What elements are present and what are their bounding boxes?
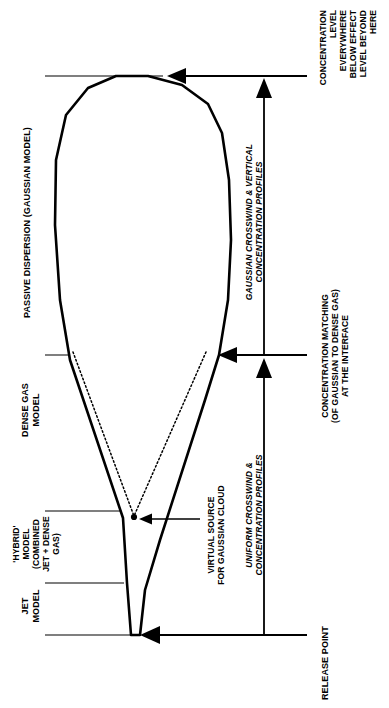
effect-level-boundary-arrow [167,68,307,84]
zone-label-dense-gas-model: DENSE GAS MODEL [20,355,41,465]
zone-label-hybrid-model: 'HYBRID' MODEL (COMBINED JET + DENSE GAS… [11,508,61,580]
release-point-arrow [140,626,307,644]
annotation-virtual-source: VIRTUAL SOURCE FOR GAUSSIAN CLOUD [206,455,226,615]
annotation-concentration-level: CONCENTRATION LEVEL EVERYWHERE BELOW EFF… [318,10,378,178]
annotation-release-point: RELEASE POINT [320,580,331,700]
annotation-concentration-matching: CONCENTRATION MATCHING (OF GAUSSIAN TO D… [320,280,350,432]
arrow-label-gaussian-profiles: GAUSSIAN CROSSWIND & VERTICAL CONCENTRAT… [244,106,264,338]
virtual-source-point-marker [131,514,137,520]
zone-label-jet-model: JET MODEL [20,580,41,632]
zone-label-passive-dispersion: PASSIVE DISPERSION (GAUSSIAN MODEL) [22,78,33,318]
virtual-source-leader-arrow [139,514,200,525]
interface-pointer-arrow [218,347,307,363]
arrow-label-uniform-profiles: UNIFORM CROSSWIND & CONCENTRATION PROFIL… [244,406,264,624]
dispersion-model-diagram: PASSIVE DISPERSION (GAUSSIAN MODEL) DENS… [0,0,389,708]
